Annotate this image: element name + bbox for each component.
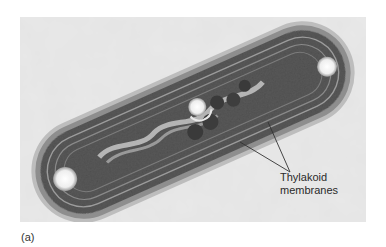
panel-label: (a) [21,231,34,243]
label-line-1: Thylakoid [280,171,338,184]
thylakoid-membranes-label: Thylakoid membranes [280,171,338,197]
label-line-2: membranes [280,184,338,197]
